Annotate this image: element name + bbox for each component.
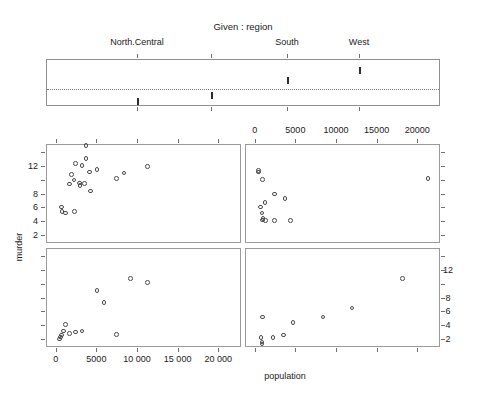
y-tick-right <box>441 339 445 340</box>
y-tick-right-top-panel <box>441 221 445 222</box>
x-tick-top-left-panel <box>178 139 179 143</box>
x-tick-bottom-right-panel <box>336 348 337 352</box>
y-tick-left <box>41 166 45 167</box>
x-tick-top-left-panel <box>218 139 219 143</box>
y-tick-label-right: 4 <box>445 321 450 330</box>
y-tick-right-top-panel <box>441 166 445 167</box>
y-tick-right-top-panel <box>441 235 445 236</box>
y-tick-right-top-panel <box>441 207 445 208</box>
y-tick-left-bottom-panel <box>41 270 45 271</box>
y-tick-left <box>41 235 45 236</box>
y-tick-right-minor <box>441 284 445 285</box>
y-tick-left-minor <box>41 180 45 181</box>
x-tick-top <box>417 139 418 143</box>
y-tick-left-minor <box>41 152 45 153</box>
y-tick-left-bottom-panel <box>41 284 45 285</box>
x-tick-bottom-right-panel <box>417 348 418 352</box>
y-tick-left-bottom-panel <box>41 256 45 257</box>
y-tick-label-left: 4 <box>33 217 38 226</box>
axes-layer: 050001000015000200000500010 00015 00020 … <box>0 0 486 398</box>
y-tick-right-minor <box>441 256 445 257</box>
x-tick-bottom <box>178 348 179 352</box>
y-tick-label-right: 6 <box>445 307 450 316</box>
x-tick-bottom-right-panel <box>377 348 378 352</box>
y-tick-label-left: 6 <box>33 203 38 212</box>
y-tick-right-top-panel <box>441 180 445 181</box>
y-tick-label-right: 2 <box>445 334 450 343</box>
x-tick-label-top: 10000 <box>323 126 348 135</box>
y-tick-right-top-panel <box>441 194 445 195</box>
x-tick-label-bottom: 5000 <box>86 355 106 364</box>
y-tick-left-bottom-panel <box>41 298 45 299</box>
x-tick-top <box>336 139 337 143</box>
y-tick-left <box>41 221 45 222</box>
y-tick-label-right: 8 <box>445 293 450 302</box>
x-tick-label-top: 5000 <box>285 126 305 135</box>
y-tick-right-top-panel <box>441 152 445 153</box>
y-tick-right <box>441 311 445 312</box>
x-tick-bottom <box>96 348 97 352</box>
x-tick-top-left-panel <box>56 139 57 143</box>
y-tick-right <box>441 325 445 326</box>
y-tick-label-left: 2 <box>33 230 38 239</box>
x-tick-label-top: 15000 <box>364 126 389 135</box>
coplot-figure: Given : region North.CentralSouthWest mu… <box>0 0 486 398</box>
x-tick-bottom <box>56 348 57 352</box>
y-tick-left <box>41 194 45 195</box>
y-tick-label-left: 12 <box>28 162 38 171</box>
y-tick-left-bottom-panel <box>41 325 45 326</box>
x-tick-label-bottom: 0 <box>53 355 58 364</box>
x-tick-label-bottom: 20 000 <box>204 355 232 364</box>
x-tick-top-left-panel <box>96 139 97 143</box>
x-tick-top <box>377 139 378 143</box>
y-tick-left-bottom-panel <box>41 311 45 312</box>
x-tick-top-left-panel <box>137 139 138 143</box>
y-tick-label-left: 8 <box>33 189 38 198</box>
x-tick-bottom <box>218 348 219 352</box>
y-tick-label-right: 12 <box>443 266 453 275</box>
x-tick-bottom-right-panel <box>295 348 296 352</box>
x-tick-top <box>255 139 256 143</box>
y-tick-left-bottom-panel <box>41 339 45 340</box>
x-tick-label-top: 20000 <box>405 126 430 135</box>
x-tick-bottom <box>137 348 138 352</box>
x-tick-label-bottom: 15 000 <box>164 355 192 364</box>
x-tick-top <box>295 139 296 143</box>
x-tick-label-top: 0 <box>252 126 257 135</box>
x-tick-label-bottom: 10 000 <box>123 355 151 364</box>
x-tick-bottom-right-panel <box>255 348 256 352</box>
y-tick-right <box>441 298 445 299</box>
y-tick-left <box>41 207 45 208</box>
